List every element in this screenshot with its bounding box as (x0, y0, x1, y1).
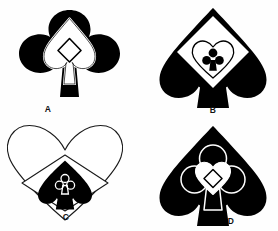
panel-c: C (0, 116, 139, 231)
figure-sheet: A B (0, 0, 278, 231)
panel-d-label: D (228, 216, 234, 226)
panel-d: D (139, 116, 278, 231)
panel-c-label: C (63, 212, 69, 222)
panel-b-label: B (210, 105, 216, 115)
panel-b: B (139, 0, 278, 116)
panel-a-label: A (45, 104, 51, 114)
panel-a: A (0, 0, 139, 116)
